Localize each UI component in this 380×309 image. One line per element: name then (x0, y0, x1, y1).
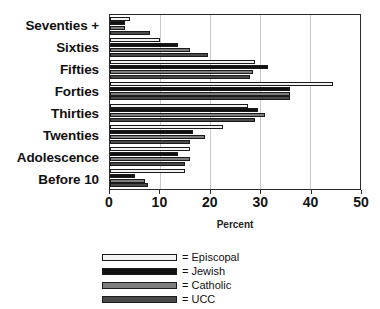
bar-ucc (110, 118, 255, 122)
bar-row (110, 43, 360, 47)
category-label: Twenties (0, 124, 103, 146)
bar-episcopal (110, 147, 190, 151)
bar-row (110, 104, 360, 108)
bar-row (110, 70, 360, 74)
bar-row (110, 21, 360, 25)
bar-jewish (110, 108, 258, 112)
bar-row (110, 162, 360, 166)
bar-episcopal (110, 125, 223, 129)
bar-ucc (110, 162, 185, 166)
bar-episcopal (110, 104, 248, 108)
bar-row (110, 60, 360, 64)
bar-row (110, 75, 360, 79)
bar-ucc (110, 96, 290, 100)
bar-row (110, 140, 360, 144)
bar-episcopal (110, 17, 130, 21)
legend-label: = Episcopal (182, 251, 239, 263)
category-label: Thirties (0, 102, 103, 124)
bar-row (110, 125, 360, 129)
bar-jewish (110, 174, 135, 178)
bar-catholic (110, 70, 253, 74)
x-tick-label: 20 (202, 194, 218, 210)
category-label: Seventies + (0, 14, 103, 36)
bar-row (110, 31, 360, 35)
legend-swatch-episcopal (102, 254, 177, 261)
bar-catholic (110, 179, 145, 183)
category-label: Fifties (0, 58, 103, 80)
bar-group (110, 146, 360, 168)
bar-row (110, 174, 360, 178)
bar-episcopal (110, 38, 160, 42)
bar-row (110, 147, 360, 151)
plot-area (109, 14, 361, 190)
legend-swatch-catholic (102, 282, 177, 289)
category-axis-labels: Seventies +SixtiesFiftiesFortiesThirties… (0, 14, 103, 190)
bar-group (110, 59, 360, 81)
gridline (360, 15, 361, 189)
bar-row (110, 118, 360, 122)
x-tick-label: 40 (303, 194, 319, 210)
category-label: Sixties (0, 36, 103, 58)
bar-row (110, 92, 360, 96)
x-tick-label: 10 (152, 194, 168, 210)
bar-catholic (110, 135, 205, 139)
bar-row (110, 38, 360, 42)
bar-jewish (110, 130, 193, 134)
bar-episcopal (110, 82, 333, 86)
bar-row (110, 53, 360, 57)
bar-catholic (110, 157, 190, 161)
bar-row (110, 113, 360, 117)
legend: = Episcopal= Jewish= Catholic= UCC (102, 250, 292, 306)
legend-label: = Jewish (182, 265, 225, 277)
x-axis-title: Percent (109, 219, 361, 230)
bar-row (110, 135, 360, 139)
legend-item-episcopal: = Episcopal (102, 250, 292, 264)
bar-jewish (110, 87, 290, 91)
horizontal-bar-chart: Seventies +SixtiesFiftiesFortiesThirties… (0, 0, 380, 309)
bar-catholic (110, 92, 290, 96)
bar-row (110, 157, 360, 161)
bar-row (110, 169, 360, 173)
bar-group (110, 102, 360, 124)
bar-catholic (110, 48, 190, 52)
legend-item-catholic: = Catholic (102, 278, 292, 292)
legend-swatch-ucc (102, 296, 177, 303)
bar-group (110, 80, 360, 102)
bar-row (110, 26, 360, 30)
bar-row (110, 17, 360, 21)
bar-row (110, 179, 360, 183)
x-tick-label: 30 (252, 194, 268, 210)
bar-catholic (110, 26, 125, 30)
legend-item-ucc: = UCC (102, 292, 292, 306)
bar-row (110, 130, 360, 134)
x-tick-label: 50 (353, 194, 369, 210)
bar-ucc (110, 140, 190, 144)
bar-row (110, 48, 360, 52)
bar-ucc (110, 31, 150, 35)
bar-jewish (110, 43, 178, 47)
bar-row (110, 152, 360, 156)
bar-jewish (110, 152, 178, 156)
category-label: Before 10 (0, 168, 103, 190)
legend-swatch-jewish (102, 268, 177, 275)
legend-label: = Catholic (182, 279, 231, 291)
bar-episcopal (110, 60, 255, 64)
bar-row (110, 65, 360, 69)
x-axis-ticks: 01020304050 (109, 190, 361, 196)
bar-row (110, 82, 360, 86)
bar-group (110, 15, 360, 37)
bar-catholic (110, 113, 265, 117)
bar-row (110, 87, 360, 91)
bar-group (110, 37, 360, 59)
legend-item-jewish: = Jewish (102, 264, 292, 278)
bar-groups (110, 15, 360, 189)
bar-jewish (110, 65, 268, 69)
bar-row (110, 183, 360, 187)
bar-ucc (110, 183, 148, 187)
chart-title (62, 0, 362, 6)
bar-group (110, 167, 360, 189)
category-label: Adolescence (0, 146, 103, 168)
legend-label: = UCC (182, 293, 215, 305)
bar-ucc (110, 53, 208, 57)
bar-row (110, 96, 360, 100)
